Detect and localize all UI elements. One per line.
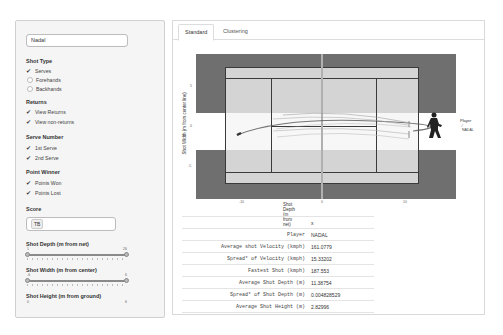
slider-track[interactable] [27,254,127,256]
check-icon [27,69,32,74]
legend-entry: ⁄ NADAL [462,124,474,132]
check-icon [27,156,32,161]
check-icon [27,191,32,196]
checkbox-view-non-returns[interactable]: View non-returns [27,119,74,125]
x-tick: 10 [403,200,407,204]
stats-table: x PlayerNADAL Average shot Velocity (kmp… [182,216,374,313]
check-icon [27,110,32,115]
serve-number-label: Serve Number [26,134,63,140]
table-row: Spread* of Velocity (kmph)15.33202 [182,253,374,265]
unchecked-icon [27,86,33,92]
score-input[interactable]: TB [26,217,116,231]
stats-header: x [308,217,374,229]
x-tick: 0 [321,200,323,204]
shot-height-label: Shot Height (m from ground) [26,293,101,299]
slider-handle-min[interactable] [25,278,30,283]
table-row: Average Shot Height (m)2.82996 [182,301,374,313]
x-tick: -10 [239,200,244,204]
point-winner-label: Point Winner [26,169,60,175]
filter-sidebar: Shot Type Serves Forehands Backhands Ret… [15,20,165,318]
y-tick: 0 [190,124,192,128]
checkbox-points-won[interactable]: Points Won [27,180,61,186]
shot-depth-label: Shot Depth (m from net) [26,241,89,247]
checkbox-backhands[interactable]: Backhands [27,86,62,92]
shot-type-label: Shot Type [26,58,52,64]
slider-handle-min[interactable] [25,252,30,257]
check-icon [27,146,32,151]
player-search-input[interactable] [26,34,128,47]
returns-label: Returns [26,99,47,105]
checkbox-serves[interactable]: Serves [27,68,51,74]
table-row: Fastest Shot (kmph)187.553 [182,265,374,277]
table-row: PlayerNADAL [182,229,374,241]
y-tick: -5 [188,164,191,168]
y-tick: 5 [190,84,192,88]
player-silhouette-icon [426,112,444,140]
table-row: Average shot Velocity (kmph)161.0779 [182,241,374,253]
checkbox-1st-serve[interactable]: 1st Serve [27,145,57,151]
shot-height-slider[interactable]: 0 6 [27,302,127,312]
shot-width-slider[interactable]: -6 6 [27,275,127,285]
check-icon [27,120,32,125]
shot-width-label: Shot Width (m from center) [26,267,97,273]
checkbox-2nd-serve[interactable]: 2nd Serve [27,155,59,161]
unchecked-icon [27,77,33,83]
y-axis-label: Shot Width (m from center line) [182,85,187,155]
score-label: Score [26,206,41,212]
checkbox-points-lost[interactable]: Points Lost [27,190,61,196]
table-row: Spread* of Shot Depth (m)0.004828529 [182,289,374,301]
score-tag[interactable]: TB [31,219,43,229]
slider-handle-max[interactable] [124,252,129,257]
legend-title: Player [460,118,471,123]
shot-depth-slider[interactable]: 1 26 [27,249,127,259]
checkbox-forehands[interactable]: Forehands [27,77,61,83]
main-panel: Standard Clustering [172,20,485,315]
table-row: Average Shot Depth (m)11.38754 [182,277,374,289]
slider-handle-max[interactable] [124,278,129,283]
slider-grid [27,284,127,286]
slider-track[interactable] [27,280,127,282]
slider-grid [27,258,127,260]
checkbox-view-returns[interactable]: View Returns [27,109,66,115]
check-icon [27,181,32,186]
